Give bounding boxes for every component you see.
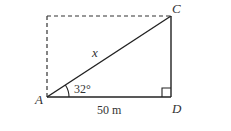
label-angle: 32° — [74, 82, 91, 96]
right-angle-marker — [162, 88, 171, 97]
hypotenuse-AC — [47, 16, 171, 97]
label-D: D — [171, 101, 182, 116]
label-C: C — [172, 1, 181, 16]
label-A: A — [34, 92, 43, 107]
angle-arc — [65, 85, 69, 97]
triangle-diagram: A C D x 32° 50 m — [0, 0, 231, 131]
label-x: x — [91, 45, 98, 60]
label-base: 50 m — [97, 103, 122, 117]
